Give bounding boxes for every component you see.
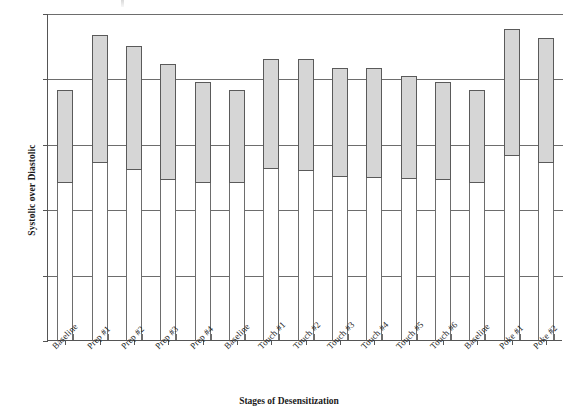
bar-systolic-range (504, 29, 520, 156)
bar-group (366, 68, 382, 340)
bar-diastolic-base (160, 180, 176, 340)
bar-group (92, 35, 108, 340)
bar-diastolic-base (229, 183, 245, 340)
bar-systolic-range (57, 90, 73, 183)
bar-systolic-range (332, 68, 348, 177)
bar-systolic-range (92, 35, 108, 163)
bar-systolic-range (401, 76, 417, 179)
bar-diastolic-base (298, 171, 314, 340)
bar-group (504, 29, 520, 340)
bar-group (332, 68, 348, 340)
bar-group (195, 82, 211, 340)
x-tick-minor (382, 334, 383, 340)
bar-systolic-range (160, 64, 176, 180)
bar-group (160, 64, 176, 340)
bar-systolic-range (366, 68, 382, 178)
x-tick-minor (73, 334, 74, 340)
bar-systolic-range (263, 59, 279, 169)
y-axis-title: Systolic over Diastolic (27, 95, 37, 285)
bar-diastolic-base (332, 177, 348, 341)
bar-diastolic-base (401, 179, 417, 340)
bar-systolic-range (538, 38, 554, 164)
bar-diastolic-base (92, 163, 108, 340)
x-tick-minor (176, 334, 177, 340)
bar-group (469, 90, 485, 340)
bar-group (263, 59, 279, 340)
bar-systolic-range (126, 46, 142, 170)
gridline-250 (48, 14, 563, 15)
y-tick-mark-100 (43, 210, 48, 211)
bar-diastolic-base (504, 156, 520, 340)
bar-systolic-range (229, 90, 245, 183)
y-tick-mark-150 (43, 145, 48, 146)
bar-group (229, 90, 245, 340)
chart-container: Systolic over Diastolic 050100150200250 … (0, 0, 578, 410)
bar-group (57, 90, 73, 340)
bar-diastolic-base (263, 169, 279, 340)
bar-group (435, 82, 451, 340)
bar-group (126, 46, 142, 340)
x-tick-minor (279, 334, 280, 340)
x-tick-minor (485, 334, 486, 340)
bar-diastolic-base (538, 163, 554, 340)
bar-systolic-range (195, 82, 211, 183)
bar-diastolic-base (469, 183, 485, 340)
bar-diastolic-base (195, 183, 211, 340)
bar-diastolic-base (366, 178, 382, 340)
y-tick-mark-200 (43, 79, 48, 80)
bar-systolic-range (298, 59, 314, 171)
bar-diastolic-base (435, 180, 451, 340)
plot-area: 050100150200250 (47, 14, 562, 341)
bar-systolic-range (435, 82, 451, 180)
x-axis-tick-labels: BaselinePrep #1Prep #2Prep #3Prep #4Base… (47, 344, 562, 404)
bar-group (401, 76, 417, 340)
y-tick-mark-250 (43, 14, 48, 15)
bar-diastolic-base (126, 170, 142, 340)
bar-group (538, 38, 554, 340)
x-axis-title: Stages of Desensitization (0, 396, 578, 406)
scan-artifact (121, 0, 124, 7)
y-tick-mark-50 (43, 276, 48, 277)
bar-group (298, 59, 314, 340)
bar-systolic-range (469, 90, 485, 183)
bar-diastolic-base (57, 183, 73, 340)
y-tick-mark-0 (43, 341, 48, 342)
